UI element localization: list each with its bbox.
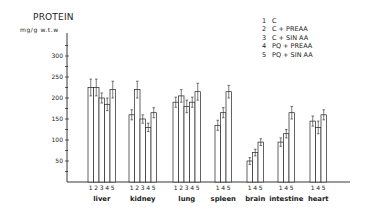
bar <box>289 113 295 182</box>
bar <box>99 98 105 182</box>
bar <box>278 142 284 182</box>
bar <box>316 127 322 182</box>
bar-series-label: 5 <box>196 184 200 191</box>
y-tick-label: 50 <box>55 157 63 164</box>
bar <box>110 90 116 182</box>
bar-series-label: 2 <box>179 184 183 191</box>
y-tick-label: 200 <box>52 94 64 101</box>
bar-series-label: 1 <box>130 184 134 191</box>
bar <box>215 125 221 182</box>
bar-series-label: 4 <box>316 184 320 191</box>
bar-series-label: 5 <box>290 184 294 191</box>
bar <box>321 115 327 182</box>
bar-series-label: 3 <box>141 184 145 191</box>
bar-series-label: 1 <box>216 184 220 191</box>
bar <box>310 121 316 182</box>
bar <box>190 102 196 182</box>
y-tick-label: 300 <box>52 52 64 59</box>
bar-series-label: 3 <box>100 184 104 191</box>
bar-series-label: 5 <box>227 184 231 191</box>
category-label: heart <box>308 195 329 203</box>
bar-series-label: 4 <box>105 184 109 191</box>
bar-series-label: 1 <box>311 184 315 191</box>
y-tick-label: 100 <box>52 136 64 143</box>
category-label: liver <box>93 195 111 203</box>
bar-series-label: 3 <box>185 184 189 191</box>
bar <box>151 113 157 182</box>
bar <box>94 88 100 183</box>
bar-series-label: 4 <box>190 184 194 191</box>
bar-series-label: 2 <box>135 184 139 191</box>
bar <box>195 92 201 182</box>
bar-chart-plot: 5010015020025030012345liver12345kidney12… <box>0 0 368 213</box>
bar <box>253 153 259 182</box>
bar <box>105 104 111 182</box>
bar-series-label: 5 <box>259 184 263 191</box>
bar-series-label: 2 <box>94 184 98 191</box>
bar-series-label: 4 <box>284 184 288 191</box>
bar <box>258 142 264 182</box>
bar <box>184 106 190 182</box>
bar-series-label: 1 <box>174 184 178 191</box>
bar <box>135 90 141 182</box>
bar <box>140 119 146 182</box>
bar <box>146 127 152 182</box>
bar <box>221 113 227 182</box>
bar-series-label: 5 <box>111 184 115 191</box>
y-tick-label: 150 <box>52 115 64 122</box>
category-label: spleen <box>211 195 236 203</box>
category-label: lung <box>178 195 195 203</box>
category-label: intestine <box>269 195 303 203</box>
bar-series-label: 5 <box>322 184 326 191</box>
bar <box>129 115 135 182</box>
bar-series-label: 1 <box>248 184 252 191</box>
bar-series-label: 4 <box>146 184 150 191</box>
bar-series-label: 4 <box>221 184 225 191</box>
y-tick-label: 250 <box>52 73 64 80</box>
bar <box>284 134 290 182</box>
bar <box>173 102 179 182</box>
bar <box>179 96 185 182</box>
bar-series-label: 5 <box>152 184 156 191</box>
bar-series-label: 1 <box>89 184 93 191</box>
bar <box>226 92 232 182</box>
bar <box>88 88 94 183</box>
bar-series-label: 1 <box>279 184 283 191</box>
category-label: kidney <box>130 195 156 203</box>
bar-series-label: 4 <box>253 184 257 191</box>
category-label: brain <box>245 195 265 203</box>
